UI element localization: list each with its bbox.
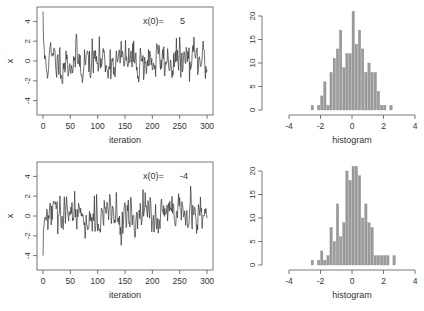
histogram-bar bbox=[390, 105, 392, 110]
trace-plot-bottom: -4-2024050100150200250300iterationxx(0)=… bbox=[5, 162, 214, 300]
histogram-bar bbox=[327, 105, 329, 110]
histogram-bar bbox=[333, 58, 335, 110]
histogram-bar bbox=[317, 260, 319, 265]
histogram-bar bbox=[371, 227, 373, 265]
histogram-bar bbox=[384, 105, 386, 110]
annotation-value: -4 bbox=[180, 171, 188, 181]
trace-plot-top: -4-2024050100150200250300iterationxx(0)=… bbox=[5, 7, 214, 145]
y-tick-label: 2 bbox=[23, 193, 32, 198]
x-tick-label: 150 bbox=[118, 121, 132, 131]
y-tick-label: -2 bbox=[23, 77, 32, 85]
x-tick-label: 300 bbox=[200, 121, 214, 131]
x-tick-label: -2 bbox=[317, 276, 325, 286]
y-tick-label: -2 bbox=[23, 232, 32, 240]
y-tick-label: 4 bbox=[23, 174, 32, 179]
histogram-bar bbox=[343, 223, 345, 265]
histogram-bar bbox=[384, 256, 386, 265]
y-tick-label: 0 bbox=[23, 58, 32, 63]
annotation-value: 5 bbox=[180, 16, 185, 26]
x-tick-label: 250 bbox=[173, 276, 187, 286]
histogram-bar bbox=[361, 49, 363, 110]
y-tick-label: 0 bbox=[248, 107, 257, 112]
x-tick-label: 0 bbox=[41, 121, 46, 131]
x-tick-label: 100 bbox=[91, 121, 105, 131]
histogram-bar bbox=[380, 256, 382, 265]
histogram-bar bbox=[346, 171, 348, 265]
x-tick-label: 300 bbox=[200, 276, 214, 286]
histogram-bar bbox=[352, 11, 354, 110]
trace-line bbox=[43, 186, 207, 256]
histogram-bar bbox=[324, 82, 326, 110]
x-tick-label: 4 bbox=[413, 121, 418, 131]
histogram-bar bbox=[311, 260, 313, 265]
histogram-bar bbox=[311, 105, 313, 110]
x-tick-label: 50 bbox=[66, 121, 76, 131]
y-axis-label: x bbox=[5, 213, 15, 218]
x-tick-label: 150 bbox=[118, 276, 132, 286]
histogram-bar bbox=[365, 72, 367, 110]
histogram-bar bbox=[374, 72, 376, 110]
histogram-bar bbox=[327, 256, 329, 265]
histogram-bar bbox=[339, 30, 341, 110]
histogram-bar bbox=[365, 204, 367, 265]
x-tick-label: 0 bbox=[350, 276, 355, 286]
x-tick-label: 2 bbox=[381, 276, 386, 286]
x-axis-label: histogram bbox=[332, 290, 372, 300]
x-tick-label: 200 bbox=[145, 121, 159, 131]
histogram-bar bbox=[336, 204, 338, 265]
histogram-bar bbox=[377, 91, 379, 110]
histogram-bar bbox=[333, 242, 335, 266]
histogram-bar bbox=[343, 68, 345, 110]
x-tick-label: -4 bbox=[285, 121, 293, 131]
y-tick-label: 15 bbox=[248, 190, 257, 199]
histogram-bar bbox=[374, 256, 376, 265]
histogram-bar bbox=[349, 54, 351, 110]
y-tick-label: 20 bbox=[248, 11, 257, 20]
y-tick-label: 5 bbox=[248, 239, 257, 244]
y-tick-label: 10 bbox=[248, 58, 257, 67]
histogram-bar bbox=[358, 176, 360, 265]
histogram-bar bbox=[371, 72, 373, 110]
histogram-bottom: 05101520-4-2024histogram bbox=[248, 166, 418, 300]
histogram-bar bbox=[352, 166, 354, 265]
y-axis-label: x bbox=[5, 58, 15, 63]
histogram-bar bbox=[336, 49, 338, 110]
histogram-bar bbox=[358, 30, 360, 110]
x-tick-label: 0 bbox=[350, 121, 355, 131]
histogram-top: 05101520-4-2024histogram bbox=[248, 11, 418, 145]
histogram-bar bbox=[317, 105, 319, 110]
x-tick-label: 100 bbox=[91, 276, 105, 286]
y-tick-label: 5 bbox=[248, 84, 257, 89]
histogram-bar bbox=[321, 96, 323, 110]
histogram-bar bbox=[387, 256, 389, 265]
histogram-bar bbox=[330, 72, 332, 110]
y-tick-label: 2 bbox=[23, 38, 32, 43]
figure: -4-2024050100150200250300iterationxx(0)=… bbox=[0, 0, 424, 311]
histogram-bar bbox=[393, 256, 395, 265]
histogram-bar bbox=[346, 54, 348, 110]
histogram-bar bbox=[349, 180, 351, 265]
annotation-label: x(0)= bbox=[143, 171, 164, 181]
histogram-bar bbox=[355, 166, 357, 265]
histogram-bar bbox=[339, 237, 341, 265]
annotation-label: x(0)= bbox=[143, 16, 164, 26]
x-axis-label: iteration bbox=[109, 290, 141, 300]
x-tick-label: -2 bbox=[317, 121, 325, 131]
histogram-bar bbox=[355, 44, 357, 110]
histogram-bar bbox=[321, 251, 323, 265]
histogram-bar bbox=[324, 260, 326, 265]
y-tick-label: 15 bbox=[248, 35, 257, 44]
x-tick-label: 50 bbox=[66, 276, 76, 286]
y-tick-label: 10 bbox=[248, 213, 257, 222]
x-axis-label: histogram bbox=[332, 135, 372, 145]
y-tick-label: 0 bbox=[23, 213, 32, 218]
y-tick-label: -4 bbox=[23, 251, 32, 259]
x-tick-label: 4 bbox=[413, 276, 418, 286]
x-tick-label: 0 bbox=[41, 276, 46, 286]
histogram-bar bbox=[368, 223, 370, 265]
y-tick-label: 4 bbox=[23, 19, 32, 24]
x-tick-label: -4 bbox=[285, 276, 293, 286]
x-tick-label: 200 bbox=[145, 276, 159, 286]
y-tick-label: -4 bbox=[23, 96, 32, 104]
histogram-bar bbox=[368, 63, 370, 110]
